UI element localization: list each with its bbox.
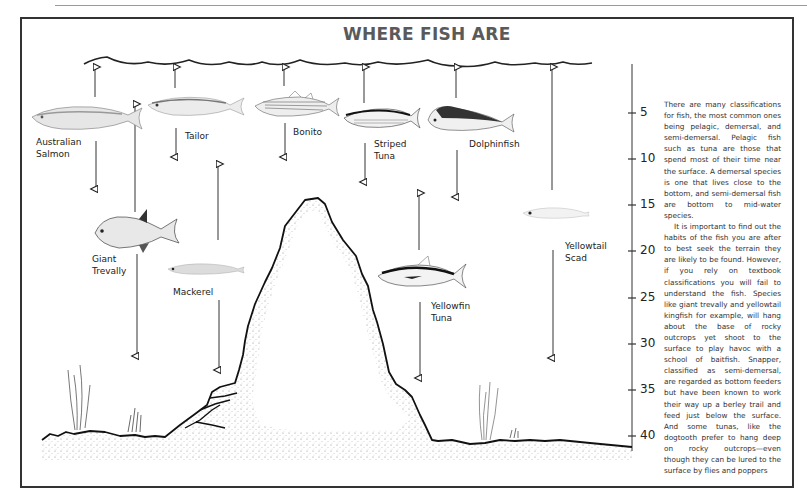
depth-tick-5: 5 xyxy=(640,105,648,119)
fish-striped-tuna xyxy=(344,108,420,128)
label-line: Dolphinfish xyxy=(469,138,520,150)
rock-outcrop-interior xyxy=(252,210,410,432)
label-dolphinfish: Dolphinfish xyxy=(469,138,520,150)
paragraph-1: There are many classifications for fish,… xyxy=(664,99,781,221)
label-tailor: Tailor xyxy=(185,130,209,142)
explanatory-text: There are many classifications for fish,… xyxy=(664,99,781,476)
seaweed-small xyxy=(128,408,141,432)
label-line: Salmon xyxy=(36,148,82,160)
label-mackerel: Mackerel xyxy=(173,286,213,298)
label-yellowfin-tuna: Yellowfin Tuna xyxy=(431,300,470,324)
depth-tick-15: 15 xyxy=(640,197,655,211)
fish-yellowfin-tuna xyxy=(378,256,466,288)
depth-tick-35: 35 xyxy=(640,382,655,396)
fish-tailor xyxy=(148,97,244,115)
label-line: Tailor xyxy=(185,130,209,142)
label-line: Bonito xyxy=(293,126,322,138)
label-line: Giant xyxy=(92,253,126,265)
paragraph-2: It is important to find out the habits o… xyxy=(664,221,781,476)
label-yellowtail-scad: Yellowtail Scad xyxy=(565,240,607,264)
depth-tick-30: 30 xyxy=(640,336,655,350)
figure-title: WHERE FISH ARE xyxy=(343,24,511,44)
seaweed-right xyxy=(479,382,518,440)
label-line: Striped xyxy=(374,138,406,150)
label-line: Yellowtail xyxy=(565,240,607,252)
fish-australian-salmon xyxy=(32,107,142,130)
depth-tick-20: 20 xyxy=(640,243,655,257)
depth-tick-10: 10 xyxy=(640,151,655,165)
fish-yellowtail-scad xyxy=(523,208,589,218)
fish-mackerel xyxy=(168,264,244,274)
label-giant-trevally: Giant Trevally xyxy=(92,253,126,277)
fish-bonito xyxy=(255,91,339,116)
label-line: Australian xyxy=(36,136,82,148)
label-bonito: Bonito xyxy=(293,126,322,138)
depth-tick-25: 25 xyxy=(640,290,655,304)
label-line: Yellowfin xyxy=(431,300,470,312)
fish-dolphinfish xyxy=(428,106,514,132)
label-striped-tuna: Striped Tuna xyxy=(374,138,406,162)
label-line: Trevally xyxy=(92,265,126,277)
depth-tick-40: 40 xyxy=(640,428,655,442)
seaweed-left xyxy=(68,365,90,430)
depth-scale-axis xyxy=(628,64,636,451)
label-line: Tuna xyxy=(374,150,406,162)
label-line: Scad xyxy=(565,252,607,264)
water-surface-line xyxy=(84,57,592,67)
label-line: Mackerel xyxy=(173,286,213,298)
label-australian-salmon: Australian Salmon xyxy=(36,136,82,160)
label-line: Tuna xyxy=(431,312,470,324)
fish-giant-trevally xyxy=(95,209,179,253)
